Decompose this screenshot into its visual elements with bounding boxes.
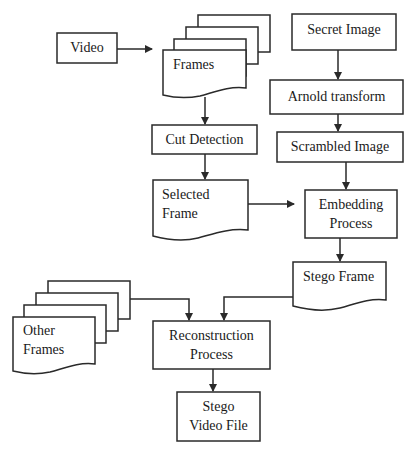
secret-image-label: Secret Image (292, 21, 396, 39)
arnold-transform-label: Arnold transform (270, 88, 403, 106)
stego-video-label-line1: Stego (177, 398, 260, 416)
selected-frame-label-line2: Frame (162, 205, 198, 223)
cut-detection-label: Cut Detection (152, 131, 257, 149)
arrow-stego-reconstruction (224, 297, 293, 320)
other-frames-label-line2: Frames (23, 341, 64, 359)
embedding-label-line1: Embedding (305, 196, 397, 214)
other-frames-label-line1: Other (23, 322, 55, 340)
frames-label: Frames (173, 56, 214, 74)
selected-frame-label-line1: Selected (162, 186, 209, 204)
reconstruction-label-line2: Process (153, 346, 270, 364)
stego-frame-label: Stego Frame (303, 268, 374, 286)
stego-video-label-line2: Video File (177, 417, 260, 435)
reconstruction-label-line1: Reconstruction (153, 327, 270, 345)
scrambled-image-label: Scrambled Image (277, 138, 403, 156)
arrow-other-reconstruction (130, 299, 189, 320)
embedding-label-line2: Process (305, 215, 397, 233)
video-label: Video (57, 39, 117, 57)
